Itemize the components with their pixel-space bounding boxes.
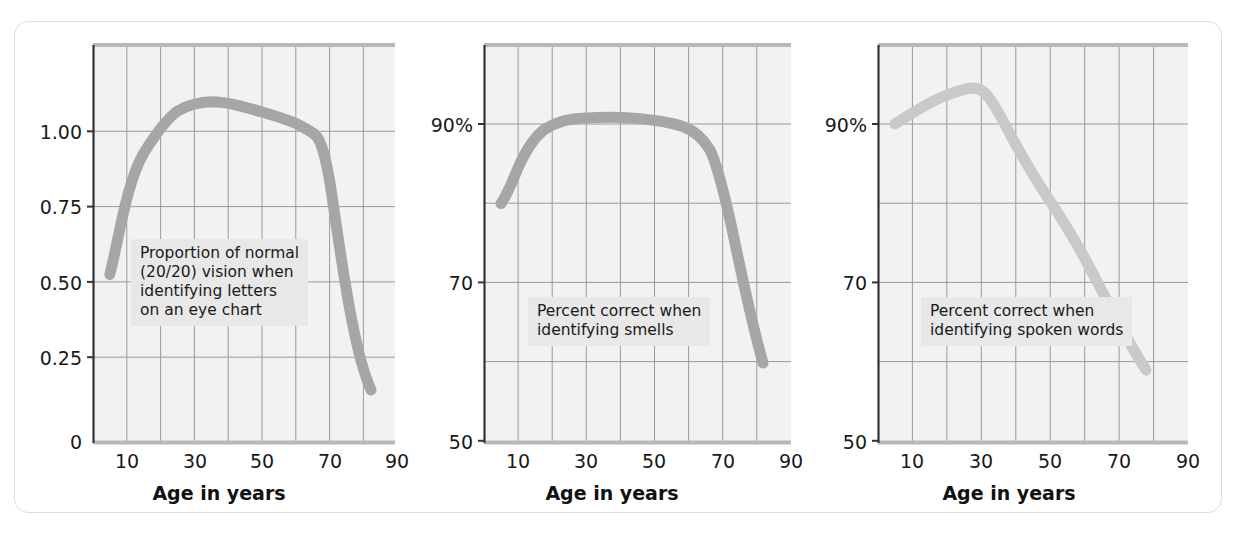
ytick-label: 0.25 [25,347,82,369]
xtick-label: 70 [1098,450,1140,472]
panel-annotation-vision: Proportion of normal (20/20) vision when… [131,239,308,326]
ytick-label: 50 [415,431,473,453]
x-axis-title: Age in years [517,482,707,504]
figure-root: 1.00 0.75 0.50 0.25 0 10 30 50 70 90 Age… [0,0,1247,540]
xtick-label: 10 [497,450,539,472]
xtick-label: 70 [702,450,744,472]
xtick-label: 70 [309,450,351,472]
xtick-label: 30 [174,450,216,472]
ytick-label: 50 [810,431,867,453]
xtick-label: 30 [960,450,1002,472]
panel-hearing: 90% 70 50 10 30 50 70 90 Age in years Pe… [810,0,1247,540]
x-axis-title: Age in years [914,482,1104,504]
ytick-label: 1.00 [25,121,82,143]
xtick-label: 50 [1029,450,1071,472]
panel-annotation-smell: Percent correct when identifying smells [528,297,710,346]
ytick-label: 90% [810,114,867,136]
panel-vision: 1.00 0.75 0.50 0.25 0 10 30 50 70 90 Age… [0,0,420,540]
ytick-label: 90% [415,114,473,136]
ytick-label: 70 [415,272,473,294]
xtick-label: 10 [106,450,148,472]
ytick-label: 0 [25,431,82,453]
xtick-label: 30 [565,450,607,472]
plot-area-smell [415,0,815,540]
ytick-label: 70 [810,272,867,294]
xtick-label: 10 [891,450,933,472]
panel-annotation-hearing: Percent correct when identifying spoken … [921,297,1132,346]
xtick-label: 90 [376,450,418,472]
xtick-label: 50 [633,450,675,472]
ytick-label: 0.75 [25,196,82,218]
xtick-label: 90 [1167,450,1209,472]
xtick-label: 50 [241,450,283,472]
ytick-label: 0.50 [25,272,82,294]
xtick-label: 90 [770,450,812,472]
panel-smell: 90% 70 50 10 30 50 70 90 Age in years Pe… [415,0,815,540]
x-axis-title: Age in years [124,482,314,504]
